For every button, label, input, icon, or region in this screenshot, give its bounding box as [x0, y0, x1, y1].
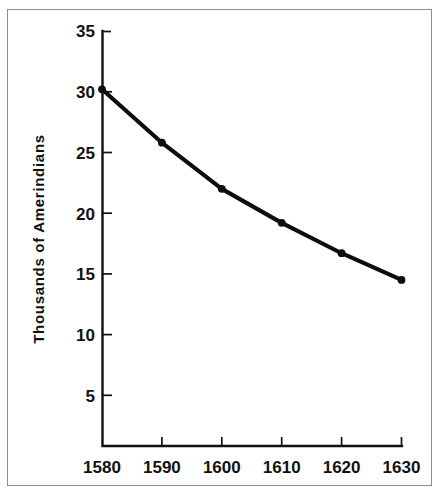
y-tick-label-5: 5 — [86, 387, 95, 406]
chart-axes-lines — [103, 31, 403, 446]
data-markers-group — [98, 85, 405, 283]
y-tick-label-35: 35 — [76, 22, 95, 41]
data-point-1620 — [338, 249, 346, 257]
y-axis-title: Thousands of Amerindians — [30, 134, 47, 344]
chart-figure: 35 30 25 20 15 10 5 1580 1590 1600 1610 … — [0, 0, 441, 498]
line-chart-plot: 35 30 25 20 15 10 5 1580 1590 1600 1610 … — [0, 0, 441, 498]
data-point-1590 — [158, 139, 166, 147]
x-tick-label-1590: 1590 — [143, 458, 181, 477]
data-line-amerindian-population — [102, 89, 402, 280]
data-point-1610 — [278, 219, 286, 227]
x-tick-label-1600: 1600 — [203, 458, 241, 477]
y-tick-label-15: 15 — [76, 265, 95, 284]
data-point-1600 — [218, 185, 226, 193]
x-tick-label-1620: 1620 — [323, 458, 361, 477]
y-tick-label-30: 30 — [76, 83, 95, 102]
data-point-1630 — [398, 276, 406, 284]
x-axis-ticks — [162, 437, 342, 446]
x-tick-label-1580: 1580 — [83, 458, 121, 477]
y-tick-label-25: 25 — [76, 144, 95, 163]
y-tick-label-10: 10 — [76, 326, 95, 345]
data-series-group — [98, 85, 405, 283]
y-axis-ticks — [103, 92, 113, 396]
data-point-1580 — [98, 85, 106, 93]
y-tick-label-20: 20 — [76, 205, 95, 224]
x-tick-label-1630: 1630 — [383, 458, 421, 477]
x-tick-label-1610: 1610 — [263, 458, 301, 477]
